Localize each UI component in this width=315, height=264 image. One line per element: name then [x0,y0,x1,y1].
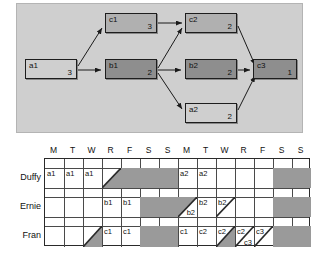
schedule-cell[interactable] [45,197,64,217]
schedule-cell[interactable]: b2 [178,197,197,217]
schedule-cell-task: b2 [218,197,226,208]
schedule-cell[interactable]: b2 [216,197,235,217]
schedule-cell[interactable] [254,168,273,188]
schedule-cell[interactable] [159,226,178,247]
schedule-cell[interactable] [159,168,178,188]
schedule-cell[interactable]: c1 [121,226,140,247]
graph-node-duration: 2 [228,68,232,78]
day-header-7: M [177,145,196,155]
schedule-cell-task: a2 [180,168,188,179]
graph-node-b2[interactable]: b22 [185,59,237,79]
schedule-cell[interactable]: c2 [216,226,235,247]
schedule-row-label-duffy: Duffy [20,172,41,182]
schedule-cell[interactable]: a1 [64,168,83,188]
schedule-cell[interactable] [140,197,159,217]
schedule-cell-task: c1 [104,226,112,237]
day-header-3: R [101,145,120,155]
schedule-cell-task: b1 [123,197,131,208]
schedule-cell-task: a1 [66,168,74,179]
schedule-cell-task: b2 [199,197,207,208]
graph-node-c2[interactable]: c22 [185,13,237,33]
schedule-cell[interactable]: a1 [45,168,64,188]
schedule-cell[interactable] [140,168,159,188]
graph-node-label: c1 [109,15,117,25]
schedule-cell[interactable] [64,226,83,247]
schedule-cell[interactable] [102,168,121,188]
schedule-cell-task: c2 [237,226,245,237]
schedule-cell-task: b1 [104,197,112,208]
schedule-row-label-fran: Fran [22,230,41,240]
day-header-2: W [82,145,101,155]
graph-node-duration: 2 [148,68,152,78]
schedule-cell-task: a1 [47,168,55,179]
schedule-row-label-ernie: Ernie [20,201,41,211]
day-header-4: F [120,145,139,155]
edge-b1-a2 [158,73,182,109]
task-graph-panel: a13b12c13b22c22a22c31 [16,3,303,133]
graph-node-a1[interactable]: a13 [25,59,77,79]
schedule-cell[interactable] [292,168,311,188]
graph-node-label: a1 [29,61,38,71]
schedule-cell[interactable] [273,197,292,217]
schedule-cell[interactable] [121,168,140,188]
graph-node-b1[interactable]: b12 [105,59,157,79]
schedule-cell[interactable] [292,226,311,247]
day-header-10: R [234,145,253,155]
schedule-cell[interactable]: a2 [178,168,197,188]
schedule-cell[interactable] [83,197,102,217]
edge-b1-c2 [158,28,182,68]
graph-node-c1[interactable]: c13 [105,13,157,33]
schedule-grid: a1a1a1a2a2b1b1b2b2b2c1c1c1c2c2c2c3c3 [44,158,310,246]
day-header-12: S [272,145,291,155]
schedule-cell[interactable] [83,226,102,247]
schedule-cell-task: c2 [218,226,226,237]
graph-node-a2[interactable]: a22 [185,103,237,123]
schedule-cell[interactable]: b2 [197,197,216,217]
schedule-cell-task: b2 [187,207,195,217]
graph-node-label: b2 [189,61,198,71]
graph-node-duration: 1 [288,68,292,78]
schedule-cell[interactable]: b1 [121,197,140,217]
schedule-cell[interactable] [235,168,254,188]
schedule-cell[interactable] [235,197,254,217]
schedule-cell-task: c1 [180,226,188,237]
schedule-cell[interactable] [273,226,292,247]
schedule-cell-task-secondary: c3 [244,237,252,247]
graph-node-duration: 3 [148,22,152,32]
edge-a1-c1 [78,28,102,66]
schedule-cell[interactable] [45,226,64,247]
schedule-cell[interactable] [140,226,159,247]
day-header-6: S [158,145,177,155]
graph-node-label: b1 [109,61,118,71]
day-header-8: T [196,145,215,155]
day-header-1: T [63,145,82,155]
schedule-cell[interactable]: c3 [254,226,273,247]
schedule-cell[interactable]: c1 [178,226,197,247]
day-header-11: F [253,145,272,155]
schedule-cell[interactable] [159,197,178,217]
edge-a2-c3 [238,76,255,110]
graph-node-c3[interactable]: c31 [253,59,297,79]
schedule-cell[interactable] [216,168,235,188]
schedule-cell-task: a1 [85,168,93,179]
graph-node-duration: 2 [228,112,232,122]
schedule-cell[interactable]: b1 [102,197,121,217]
schedule-cell[interactable]: c2 [197,226,216,247]
graph-node-label: c3 [257,61,265,71]
schedule-cell[interactable]: a1 [83,168,102,188]
day-header-0: M [44,145,63,155]
day-header-13: S [291,145,310,155]
schedule-cell[interactable] [254,197,273,217]
schedule-cell-task: a2 [199,168,207,179]
graph-node-label: c2 [189,15,197,25]
schedule-cell[interactable]: c1 [102,226,121,247]
day-header-5: S [139,145,158,155]
schedule-cell[interactable]: c2c3 [235,226,254,247]
schedule-cell[interactable]: a2 [197,168,216,188]
schedule-cell[interactable] [292,197,311,217]
schedule-cell[interactable] [64,197,83,217]
schedule-cell[interactable] [273,168,292,188]
schedule-row-labels: DuffyErnieFran [5,145,44,260]
schedule-chart: DuffyErnieFran a1a1a1a2a2b1b1b2b2b2c1c1c… [5,145,310,260]
graph-node-duration: 2 [228,22,232,32]
